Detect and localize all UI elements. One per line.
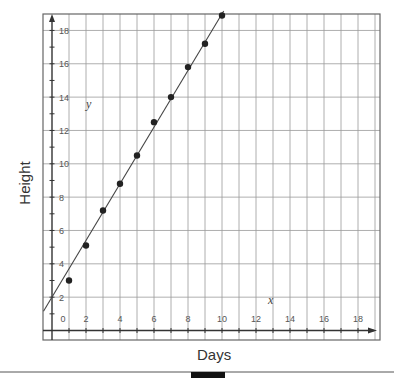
tick-labels: 02468101214161824681012141618	[59, 26, 363, 324]
data-point	[117, 181, 123, 187]
y-tick-label: 4	[59, 259, 64, 269]
x-axis-arrow-icon	[368, 328, 377, 334]
x-variable-label: x	[267, 293, 274, 307]
x-tick-label: 10	[217, 314, 227, 324]
data-point	[100, 207, 106, 213]
y-tick-label: 12	[59, 126, 69, 136]
y-axis-title: Height	[16, 160, 33, 204]
y-tick-label: 8	[59, 193, 64, 203]
data-point	[202, 41, 208, 47]
plot-frame	[43, 14, 380, 340]
trend-line	[44, 11, 224, 311]
x-tick-label: 2	[83, 314, 88, 324]
y-axis-arrow-icon	[49, 14, 55, 22]
data-point	[219, 12, 225, 18]
grid-lines	[43, 14, 380, 340]
x-tick-label: 8	[185, 314, 190, 324]
x-tick-label: 6	[151, 314, 156, 324]
x-tick-label: 18	[353, 314, 363, 324]
x-tick-label: 16	[319, 314, 329, 324]
data-point	[151, 119, 157, 125]
data-point	[66, 277, 72, 283]
y-tick-label: 2	[59, 293, 64, 303]
data-point	[134, 152, 140, 158]
y-tick-label: 14	[59, 93, 69, 103]
data-points	[66, 12, 225, 283]
y-variable-label: y	[85, 97, 92, 111]
y-tick-label: 18	[59, 26, 69, 36]
axes	[43, 14, 377, 340]
y-tick-label: 10	[59, 159, 69, 169]
x-tick-label: 14	[285, 314, 295, 324]
data-point	[185, 64, 191, 70]
x-tick-label: 12	[251, 314, 261, 324]
x-tick-label: 0	[60, 314, 65, 324]
data-point	[83, 242, 89, 248]
page-marker-block	[191, 372, 225, 378]
scatter-chart: 02468101214161824681012141618 y x Days H…	[0, 0, 394, 378]
y-tick-label: 16	[59, 59, 69, 69]
y-tick-label: 6	[59, 226, 64, 236]
x-tick-label: 4	[117, 314, 122, 324]
data-point	[168, 94, 174, 100]
x-axis-title: Days	[197, 346, 231, 363]
